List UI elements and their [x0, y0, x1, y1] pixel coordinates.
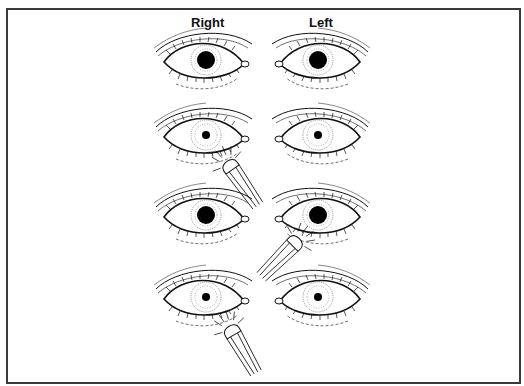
right-eye-row-2 [154, 103, 252, 164]
left-eye-row-2 [272, 103, 370, 164]
right-eye-row-3 [154, 183, 252, 244]
right-eye-row-1 [154, 28, 252, 89]
eye-illustration [0, 0, 524, 386]
left-eye-row-1 [272, 28, 370, 89]
left-eye-row-3 [272, 183, 370, 244]
penlight-icon [207, 305, 271, 382]
right-eye-row-4 [154, 265, 252, 326]
left-eye-row-4 [272, 265, 370, 326]
